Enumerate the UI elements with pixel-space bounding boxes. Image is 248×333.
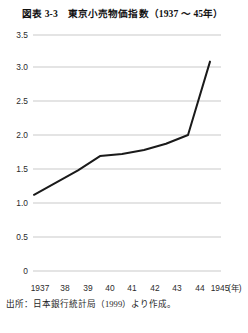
plot-area: 3.5 3.0 2.5 2.0 1.5 1.0 0.5 0 [0, 18, 248, 283]
line-chart-svg [0, 18, 248, 283]
x-axis-labels: 1937 38 39 40 41 42 43 44 1945 (年) [0, 284, 248, 297]
x-axis-unit-label: (年) [228, 284, 242, 293]
data-line-retail-price-index [34, 62, 210, 195]
figure-container: 図表 3-3 東京小売物価指数（1937 ～ 45年） 3.5 3.0 2.5 … [0, 0, 248, 333]
source-note: 出所：日本銀行統計局（1999）より作成。 [6, 299, 176, 310]
